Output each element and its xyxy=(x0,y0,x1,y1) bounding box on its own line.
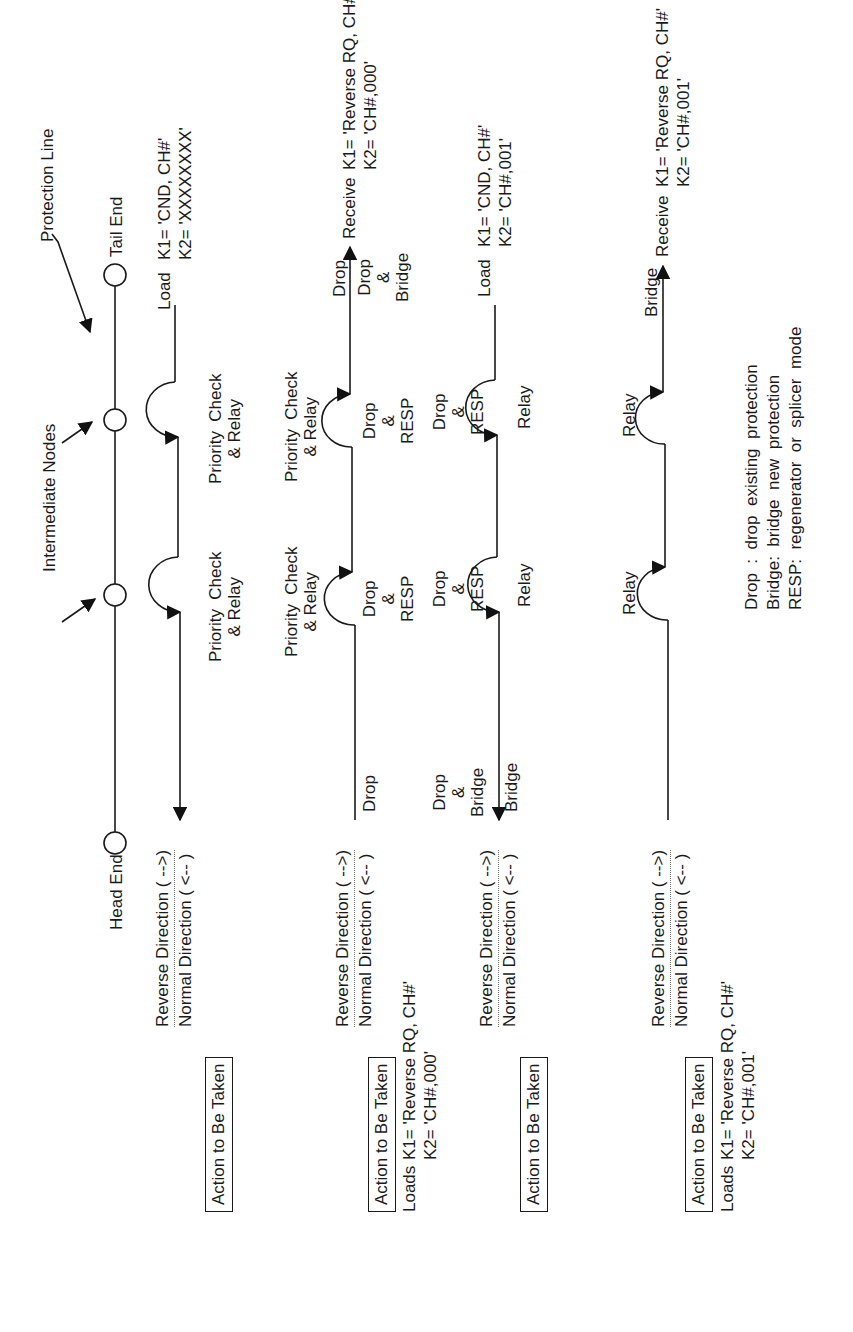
row-2-tail-label-below: Drop&Bridge xyxy=(355,253,412,302)
row-2-node-1-label: Drop&RESP xyxy=(360,576,417,622)
normal-direction-label: Normal Direction ( <-- ) xyxy=(499,850,520,1027)
row-3-action-box: Action to Be Taken xyxy=(520,1057,548,1212)
row-4-path xyxy=(635,266,668,820)
row-4-head-k1: K1= 'Reverse RQ, CH#' xyxy=(718,981,738,1160)
row-2-head-label: Drop xyxy=(360,775,379,812)
row-2-above-label-1: Priority Check& Relay xyxy=(282,546,320,657)
row-4-head-verb: Loads xyxy=(718,1166,738,1212)
intermediate-node-1-icon xyxy=(104,584,126,606)
row-4-tail-k1: K1= 'Reverse RQ, CH#' xyxy=(653,8,673,187)
protection-line xyxy=(52,234,126,854)
row-3-above-label-3: Drop&RESP xyxy=(430,389,487,435)
row-3-above-label-1: Drop&Bridge xyxy=(430,768,487,817)
intermediate-nodes-label: Intermediate Nodes xyxy=(40,424,59,572)
row-1-tail-verb: Load xyxy=(155,272,175,310)
row-4-above-label-1: Relay xyxy=(620,572,639,615)
protection-line-label: Protection Line xyxy=(38,129,57,242)
row-2-tail-verb: Receive xyxy=(340,178,360,239)
reverse-direction-label: Reverse Direction ( -->) xyxy=(476,850,499,1027)
normal-direction-label: Normal Direction ( <-- ) xyxy=(355,850,376,1027)
row-1-tail-k2: K2= 'XXXXXXXX' xyxy=(176,127,196,260)
row-3-tail-k2: K2= 'CH#,001' xyxy=(496,138,516,247)
row-2-tail-k1: K1= 'Reverse RQ, CH#' xyxy=(340,0,360,170)
row-2-node-2-label: Drop&RESP xyxy=(360,398,417,444)
row-4-tail-verb: Receive xyxy=(653,196,673,257)
row-2-above-label-2: Priority Check& Relay xyxy=(282,371,320,482)
row-4-above-label-2: Relay xyxy=(620,394,639,437)
head-end-label: Head End xyxy=(107,854,126,930)
row-3-head-label: Bridge xyxy=(502,763,521,812)
row-4-direction-labels: Reverse Direction ( -->) Normal Directio… xyxy=(648,850,692,1027)
legend-bridge: Bridge: bridge new protection xyxy=(764,375,784,610)
normal-direction-label: Normal Direction ( <-- ) xyxy=(671,850,692,1027)
reverse-direction-label: Reverse Direction ( -->) xyxy=(332,850,355,1027)
row-3-tail-k1: K1= 'CND, CH#' xyxy=(475,125,495,247)
row-4-tail-label: Bridge xyxy=(642,268,661,317)
row-2-head-k1: K1= 'Reverse RQ, CH#' xyxy=(400,981,420,1160)
row-2-head-k2: K2= 'CH#,000' xyxy=(421,1051,441,1160)
protection-switching-diagram: Protection Line Intermediate Nodes Head … xyxy=(0,0,853,1332)
row-3-path xyxy=(466,305,499,820)
row-4-action-box: Action to Be Taken xyxy=(685,1057,713,1212)
row-3-above-label-2: Drop&RESP xyxy=(430,566,487,612)
normal-direction-label: Normal Direction ( <-- ) xyxy=(175,850,196,1027)
tail-end-label: Tail End xyxy=(107,197,126,257)
row-3-node-1-label: Relay xyxy=(515,564,534,607)
row-1-tail-k1: K1= 'CND, CH#' xyxy=(155,138,175,260)
intermediate-node-2-icon xyxy=(104,409,126,431)
row-3-tail-verb: Load xyxy=(475,259,495,297)
row-1-path xyxy=(146,305,180,820)
row-1-node-1-label: Priority Check& Relay xyxy=(206,551,244,662)
reverse-direction-label: Reverse Direction ( -->) xyxy=(152,850,175,1027)
row-4-head-k2: K2= 'CH#,001' xyxy=(739,1051,759,1160)
row-2-direction-labels: Reverse Direction ( -->) Normal Directio… xyxy=(332,850,376,1027)
reverse-direction-label: Reverse Direction ( -->) xyxy=(648,850,671,1027)
head-end-node-icon xyxy=(104,832,126,854)
row-1-node-2-label: Priority Check& Relay xyxy=(206,373,244,484)
row-2-tail-k2: K2= 'CH#,000' xyxy=(361,61,381,170)
row-3-node-2-label: Relay xyxy=(515,386,534,429)
row-4-tail-k2: K2= 'CH#,001' xyxy=(674,78,694,187)
row-2-path xyxy=(322,247,355,820)
row-1-direction-labels: Reverse Direction ( -->) Normal Directio… xyxy=(152,850,196,1027)
row-2-action-box: Action to Be Taken xyxy=(368,1057,396,1212)
legend-drop: Drop : drop existing protection xyxy=(742,364,762,610)
row-1-action-box: Action to Be Taken xyxy=(205,1057,233,1212)
tail-end-node-icon xyxy=(104,264,126,286)
row-2-head-verb: Loads xyxy=(400,1166,420,1212)
row-3-direction-labels: Reverse Direction ( -->) Normal Directio… xyxy=(476,850,520,1027)
legend-resp: RESP: regenerator or splicer mode xyxy=(786,327,806,610)
row-2-tail-label-above: Drop xyxy=(330,260,349,297)
